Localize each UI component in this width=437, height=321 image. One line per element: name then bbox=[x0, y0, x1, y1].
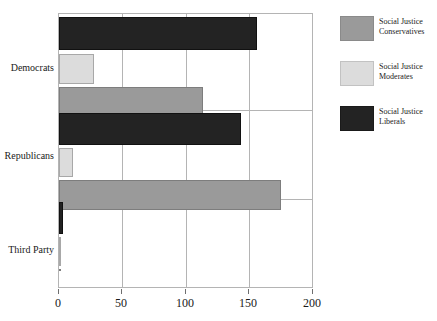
gridline-100 bbox=[186, 14, 187, 287]
xtick-mark-150 bbox=[248, 289, 249, 294]
bar-democrats-liberals bbox=[59, 17, 257, 50]
legend-label-liberals-line2: Liberals bbox=[379, 117, 437, 127]
legend-item-moderates: Social Justice Moderates bbox=[338, 61, 437, 95]
legend-item-liberals: Social Justice Liberals bbox=[338, 106, 437, 140]
legend-item-conservatives: Social Justice Conservatives bbox=[338, 16, 437, 50]
ycat-label-republicans: Republicans bbox=[5, 150, 54, 162]
legend-label-conservatives-line2: Conservatives bbox=[379, 27, 437, 37]
bar-thirdparty-conservatives bbox=[59, 269, 61, 271]
legend-swatch-conservatives-icon bbox=[340, 16, 374, 41]
legend-label-moderates-line1: Social Justice bbox=[379, 62, 437, 72]
xtick-mark-100 bbox=[185, 289, 186, 294]
xtick-mark-200 bbox=[312, 289, 313, 294]
legend-label-liberals: Social Justice Liberals bbox=[379, 107, 437, 127]
gridline-50 bbox=[122, 14, 123, 287]
y-axis-category-labels: Democrats Republicans Third Party bbox=[0, 0, 54, 321]
bar-thirdparty-moderates bbox=[59, 237, 61, 266]
xtick-label-100: 100 bbox=[165, 296, 205, 310]
legend-label-conservatives: Social Justice Conservatives bbox=[379, 17, 437, 37]
legend-label-conservatives-line1: Social Justice bbox=[379, 17, 437, 27]
xtick-label-150: 150 bbox=[228, 296, 268, 310]
bar-thirdparty-liberals bbox=[59, 202, 63, 234]
bar-republicans-moderates bbox=[59, 148, 73, 177]
ycat-label-democrats: Democrats bbox=[11, 62, 54, 74]
bar-republicans-conservatives bbox=[59, 180, 281, 210]
bar-chart: 0 50 100 150 200 Democrats Republicans T… bbox=[0, 0, 437, 321]
bar-republicans-liberals bbox=[59, 113, 241, 145]
legend-swatch-liberals-icon bbox=[340, 106, 374, 131]
legend-label-moderates: Social Justice Moderates bbox=[379, 62, 437, 82]
bar-democrats-moderates bbox=[59, 54, 94, 84]
xtick-mark-50 bbox=[121, 289, 122, 294]
xtick-label-200: 200 bbox=[292, 296, 332, 310]
legend-swatch-moderates-icon bbox=[340, 61, 374, 86]
bar-democrats-conservatives bbox=[59, 87, 203, 116]
xtick-label-50: 50 bbox=[101, 296, 141, 310]
ycat-label-thirdparty: Third Party bbox=[8, 244, 54, 256]
xtick-mark-0 bbox=[58, 289, 59, 294]
legend-label-liberals-line1: Social Justice bbox=[379, 107, 437, 117]
plot-area bbox=[58, 13, 313, 288]
gridline-150 bbox=[249, 14, 250, 287]
legend-label-moderates-line2: Moderates bbox=[379, 72, 437, 82]
